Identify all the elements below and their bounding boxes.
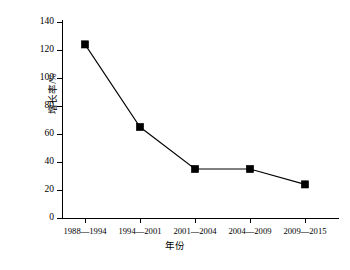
data-point-marker (81, 41, 88, 48)
x-axis-title: 年份 (0, 241, 350, 252)
series-line (85, 44, 305, 184)
y-axis-title: 增长率/% (48, 59, 59, 129)
data-series-growth-rate (0, 0, 350, 270)
data-point-marker (301, 181, 308, 188)
data-point-marker (246, 165, 253, 172)
line-chart: 020406080100120140 1988—19941994—2001200… (0, 0, 350, 270)
data-point-marker (136, 123, 143, 130)
series-markers (81, 41, 308, 188)
data-point-marker (191, 165, 198, 172)
